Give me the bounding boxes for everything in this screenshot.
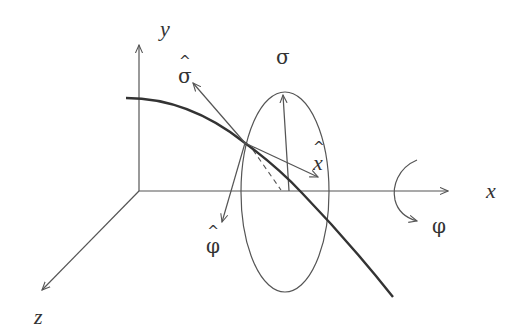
y-axis-label: y (160, 18, 170, 40)
z-axis-label: z (34, 306, 43, 328)
hat-accent: ^ (178, 54, 192, 68)
x-axis-label: x (486, 180, 496, 202)
phi-hat-label: ^ φ (206, 236, 220, 256)
hat-accent: ^ (313, 140, 323, 154)
sigma-hat-arrow (193, 83, 245, 143)
sigma-hat-label: ^ σ (178, 66, 192, 86)
sigma-plane-label: σ (276, 47, 290, 67)
z-axis (42, 191, 139, 290)
phi-rotation-label: φ (432, 216, 446, 236)
x-hat-label: ^ x (313, 152, 323, 174)
coordinate-diagram (0, 0, 523, 335)
hat-accent: ^ (206, 224, 220, 238)
trajectory-curve (126, 98, 393, 297)
